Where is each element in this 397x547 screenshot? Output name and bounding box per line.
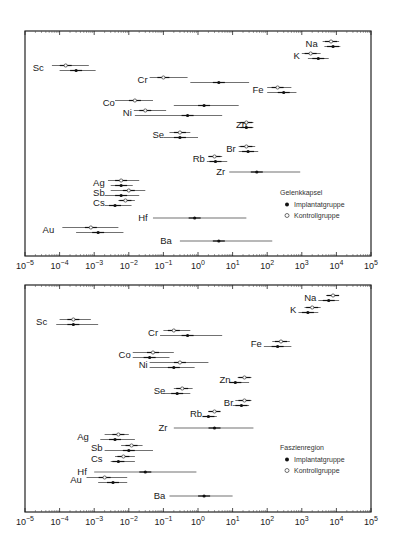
element-row-au: Au — [70, 474, 127, 485]
kontroll-marker — [172, 329, 175, 332]
element-label: Ni — [123, 107, 132, 118]
implantat-marker — [148, 356, 151, 359]
kontroll-marker — [144, 109, 147, 112]
x-tick-label: 101 — [226, 515, 240, 527]
kontroll-marker — [178, 131, 181, 134]
x-tick-label: 102 — [260, 259, 274, 271]
element-row-sb: Sb — [91, 442, 153, 453]
element-label: Sc — [36, 316, 47, 327]
implantat-marker — [240, 404, 243, 407]
element-label: Rb — [190, 408, 202, 419]
kontroll-marker — [122, 455, 125, 458]
x-tick-label: 100 — [191, 259, 205, 271]
implantat-marker — [97, 231, 100, 234]
element-label: Br — [224, 397, 234, 408]
kontroll-marker — [127, 189, 130, 192]
element-label: Ni — [139, 359, 148, 370]
legend-entry: Implantatgruppe — [294, 456, 345, 464]
x-tick-label: 10−3 — [85, 259, 103, 271]
legend-title: Gelenkkapsel — [280, 189, 323, 197]
kontroll-marker — [64, 64, 67, 67]
implantat-marker — [202, 104, 205, 107]
implantat-marker — [246, 150, 249, 153]
element-row-cr: Cr — [148, 327, 222, 338]
element-row-rb: Rb — [193, 153, 228, 164]
kontroll-marker — [329, 40, 332, 43]
kontroll-marker — [181, 387, 184, 390]
kontroll-marker — [243, 376, 246, 379]
element-label: K — [293, 50, 300, 61]
element-row-au: Au — [43, 224, 124, 235]
element-label: Br — [226, 143, 236, 154]
x-tick-label: 10−3 — [85, 515, 103, 527]
element-label: Na — [304, 292, 317, 303]
element-label: Cr — [138, 74, 148, 85]
legend-filled-dot-icon — [285, 203, 289, 207]
element-row-fe: Fe — [253, 84, 297, 95]
element-row-hf: Hf — [138, 212, 246, 223]
x-tick-label: 10−4 — [51, 259, 69, 271]
implantat-marker — [217, 81, 220, 84]
element-label: Sb — [91, 442, 103, 453]
element-row-zr: Zr — [159, 422, 254, 433]
element-row-cs: Cs — [91, 453, 135, 464]
x-tick-label: 10−5 — [16, 259, 34, 271]
element-row-ba: Ba — [154, 490, 233, 501]
element-row-hf: Hf — [77, 466, 196, 477]
implantat-marker — [111, 481, 114, 484]
legend-open-dot-icon — [285, 214, 289, 218]
implantat-marker — [72, 323, 75, 326]
element-label: Ba — [160, 235, 172, 246]
element-label: Fe — [253, 84, 264, 95]
element-label: Zn — [220, 374, 231, 385]
implantat-marker — [317, 57, 320, 60]
chart-panel-gelenkkapsel: 10−510−410−310−210−1100101102103104105Na… — [16, 31, 378, 271]
x-tick-label: 10−5 — [16, 515, 34, 527]
x-tick-label: 101 — [226, 259, 240, 271]
element-row-zr: Zr — [216, 166, 300, 177]
element-label: Cs — [93, 197, 105, 208]
element-label: Se — [154, 385, 166, 396]
x-tick-label: 102 — [260, 515, 274, 527]
implantat-marker — [113, 438, 116, 441]
implantat-marker — [193, 216, 196, 219]
element-row-ni: Ni — [123, 107, 222, 118]
implantat-marker — [120, 194, 123, 197]
element-label: Zr — [159, 422, 168, 433]
element-label: Au — [43, 224, 55, 235]
element-label: Au — [70, 474, 82, 485]
kontroll-marker — [120, 179, 123, 182]
kontroll-marker — [103, 476, 106, 479]
element-label: Cr — [148, 327, 158, 338]
element-row-zn: Zn — [220, 374, 252, 385]
element-row-fe: Fe — [251, 338, 292, 349]
implantat-marker — [113, 204, 116, 207]
element-row-cr: Cr — [138, 74, 250, 85]
element-row-k: K — [290, 304, 321, 315]
kontroll-marker — [151, 351, 154, 354]
implantat-marker — [178, 136, 181, 139]
kontroll-marker — [311, 306, 314, 309]
implantat-marker — [207, 415, 210, 418]
implantat-marker — [217, 239, 220, 242]
implantat-marker — [276, 345, 279, 348]
kontroll-marker — [162, 76, 165, 79]
x-tick-label: 10−1 — [154, 515, 172, 527]
implantat-marker — [186, 334, 189, 337]
kontroll-marker — [72, 318, 75, 321]
element-label: Zr — [216, 166, 225, 177]
kontroll-marker — [124, 199, 127, 202]
kontroll-marker — [133, 99, 136, 102]
kontroll-marker — [279, 340, 282, 343]
implantat-marker — [331, 45, 334, 48]
element-row-br: Br — [224, 397, 252, 408]
element-label: Fe — [251, 338, 262, 349]
kontroll-marker — [89, 226, 92, 229]
kontroll-marker — [130, 444, 133, 447]
implantat-marker — [282, 91, 285, 94]
element-label: Sc — [33, 62, 44, 73]
element-row-zn: Zn — [236, 119, 253, 130]
implantat-marker — [117, 460, 120, 463]
legend-entry: Kontrollgruppe — [294, 212, 340, 220]
kontroll-marker — [245, 145, 248, 148]
